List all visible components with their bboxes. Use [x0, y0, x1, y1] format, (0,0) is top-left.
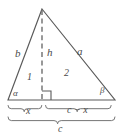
label-segment-x: x	[26, 106, 30, 116]
label-side-b: b	[15, 48, 21, 59]
label-angle-beta: β	[100, 86, 104, 95]
label-region-2: 2	[64, 68, 69, 78]
brace-segment-x	[8, 106, 42, 112]
geometry-figure: b h a 1 2 α β x c − x c	[0, 0, 123, 139]
label-angle-alpha: α	[13, 89, 18, 98]
label-segment-c-minus-x: c − x	[67, 105, 88, 115]
right-angle-marker	[42, 91, 51, 100]
label-region-1: 1	[27, 72, 32, 82]
triangle-outline	[8, 9, 115, 100]
label-side-a: a	[77, 46, 83, 57]
triangle-diagram-svg	[0, 0, 123, 139]
label-base-c: c	[58, 124, 62, 134]
label-altitude-h: h	[47, 47, 53, 58]
